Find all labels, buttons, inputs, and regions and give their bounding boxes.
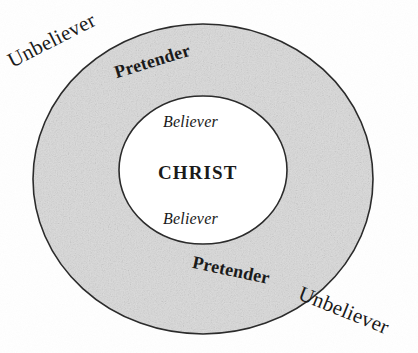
label-believer-bottom: Believer xyxy=(163,211,218,227)
label-believer-top: Believer xyxy=(163,114,218,130)
label-christ-center: CHRIST xyxy=(158,163,237,182)
diagram-canvas: Unbeliever Pretender Believer CHRIST Bel… xyxy=(0,0,418,353)
